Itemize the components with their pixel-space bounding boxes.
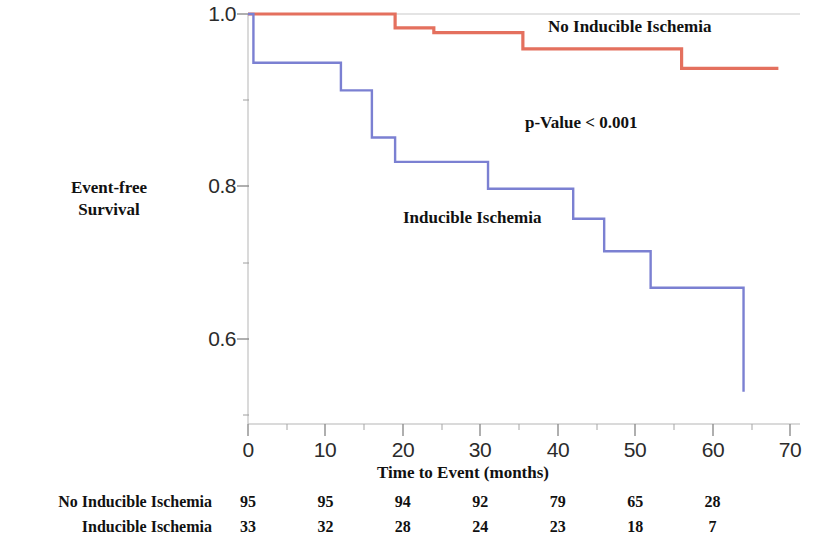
risk-row-value: 79 [535, 489, 581, 514]
annotation-p-value: p-Value < 0.001 [525, 113, 638, 133]
risk-row-value: 65 [612, 489, 658, 514]
numbers-at-risk-table: No Inducible Ischemia95959492796528Induc… [0, 489, 829, 539]
y-axis-ticks [237, 14, 249, 339]
risk-row-value: 33 [225, 514, 271, 539]
km-curves [248, 14, 778, 392]
risk-row-value: 95 [302, 489, 348, 514]
risk-row-value: 7 [690, 514, 736, 539]
risk-row-value: 92 [457, 489, 503, 514]
annotation-no-inducible-ischemia: No Inducible Ischemia [548, 17, 711, 37]
x-tick-label-60: 60 [688, 438, 738, 462]
x-axis-minor-ticks [287, 424, 752, 430]
y-tick-label-0.6: 0.6 [176, 327, 236, 351]
risk-row-label: Inducible Ischemia [0, 514, 212, 539]
x-tick-label-40: 40 [533, 438, 583, 462]
risk-row-value: 95 [225, 489, 271, 514]
risk-row-value: 23 [535, 514, 581, 539]
risk-row-value: 18 [612, 514, 658, 539]
risk-row-label: No Inducible Ischemia [0, 489, 212, 514]
risk-row-value: 94 [380, 489, 426, 514]
x-tick-label-20: 20 [378, 438, 428, 462]
kaplan-meier-figure: 1.0 0.8 0.6 0 10 20 30 40 50 60 70 Event… [0, 0, 829, 541]
x-tick-label-50: 50 [610, 438, 660, 462]
y-tick-label-1.0: 1.0 [176, 2, 236, 26]
curve-inducible-ischemia [248, 14, 744, 392]
x-tick-label-70: 70 [765, 438, 815, 462]
x-tick-label-0: 0 [223, 438, 273, 462]
x-axis-title: Time to Event (months) [333, 463, 593, 483]
x-tick-label-10: 10 [300, 438, 350, 462]
x-tick-label-30: 30 [455, 438, 505, 462]
risk-row-value: 32 [302, 514, 348, 539]
y-tick-label-0.8: 0.8 [176, 174, 236, 198]
annotation-inducible-ischemia: Inducible Ischemia [403, 208, 541, 228]
risk-row-value: 28 [380, 514, 426, 539]
risk-row-value: 24 [457, 514, 503, 539]
risk-row-value: 28 [690, 489, 736, 514]
table-row: Inducible Ischemia3332282423187 [0, 514, 829, 539]
y-axis-title-line2: Survival [34, 199, 184, 221]
y-axis-title-line1: Event-free [34, 177, 184, 199]
table-row: No Inducible Ischemia95959492796528 [0, 489, 829, 514]
y-axis-title: Event-free Survival [34, 177, 184, 222]
